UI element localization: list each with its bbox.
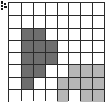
grid-cell-3-6 <box>45 77 57 90</box>
grid-cell-6-7 <box>80 89 92 102</box>
grid-cell-3-7 <box>45 89 57 102</box>
grid-cell-2-7 <box>33 89 45 102</box>
grid-cell-0-7 <box>9 89 21 102</box>
grid-cell-7-2 <box>92 28 104 41</box>
grid-cell-0-2 <box>9 28 21 41</box>
grid-cell-1-3 <box>21 40 33 53</box>
grid-cell-1-7 <box>21 89 33 102</box>
grid-cell-7-1 <box>92 15 104 28</box>
grid-cell-4-1 <box>57 15 69 28</box>
grid-line-horizontal-7 <box>9 89 104 90</box>
grid-container <box>8 2 105 102</box>
grid-cell-4-6 <box>57 77 69 90</box>
grid-cell-7-6 <box>92 77 104 90</box>
grid-line-horizontal-6 <box>9 77 104 78</box>
grid-cell-7-7 <box>92 89 104 102</box>
grid-cell-6-2 <box>80 28 92 41</box>
grid-cell-3-5 <box>45 64 57 77</box>
grid-cell-0-1 <box>9 15 21 28</box>
grid-cell-0-6 <box>9 77 21 90</box>
grid-cell-1-2 <box>21 28 33 41</box>
grid-cell-3-3 <box>45 40 57 53</box>
grid-cell-5-6 <box>68 77 80 90</box>
grid-cell-0-3 <box>9 40 21 53</box>
grid-line-horizontal-3 <box>9 40 104 41</box>
grid-cell-4-7 <box>57 89 69 102</box>
grid-cell-6-5 <box>80 64 92 77</box>
grid-cell-5-5 <box>68 64 80 77</box>
grid-cell-2-5 <box>33 64 45 77</box>
grid-line-horizontal-1 <box>9 15 104 16</box>
grid-cell-4-3 <box>57 40 69 53</box>
grid-cell-1-6 <box>21 77 33 90</box>
grid-cell-5-1 <box>68 15 80 28</box>
grid-cell-0-5 <box>9 64 21 77</box>
grid-cell-2-3 <box>33 40 45 53</box>
grid-cell-2-2 <box>33 28 45 41</box>
grid-cell-5-7 <box>68 89 80 102</box>
grid-cell-7-3 <box>92 40 104 53</box>
grid-cell-4-5 <box>57 64 69 77</box>
corner-tick-marker <box>1 1 8 10</box>
grid-cell-6-1 <box>80 15 92 28</box>
grid-cell-5-3 <box>68 40 80 53</box>
grid-line-horizontal-5 <box>9 64 104 65</box>
grid-cell-7-5 <box>92 64 104 77</box>
figure-canvas <box>0 0 107 108</box>
grid-line-horizontal-2 <box>9 28 104 29</box>
grid-cell-3-2 <box>45 28 57 41</box>
grid-cell-2-6 <box>33 77 45 90</box>
grid-cell-6-6 <box>80 77 92 90</box>
grid-cell-2-1 <box>33 15 45 28</box>
grid-cell-5-2 <box>68 28 80 41</box>
grid-cell-1-5 <box>21 64 33 77</box>
grid-cell-6-3 <box>80 40 92 53</box>
grid-cell-1-1 <box>21 15 33 28</box>
grid-cell-3-1 <box>45 15 57 28</box>
grid <box>9 3 104 101</box>
grid-line-horizontal-4 <box>9 52 104 53</box>
grid-cell-4-2 <box>57 28 69 41</box>
